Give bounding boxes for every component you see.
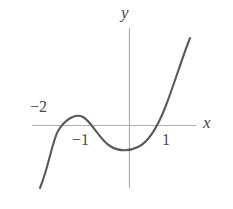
x-tick-label-neg-2: −2 [30, 99, 47, 115]
x-tick-label-neg-1: −1 [72, 132, 89, 148]
x-axis-label: x [203, 114, 211, 131]
y-axis-label: y [121, 4, 129, 21]
cubic-curve [40, 38, 190, 188]
function-graph-figure: y x −2 −1 1 [0, 0, 233, 209]
x-tick-label-pos-1: 1 [162, 132, 170, 148]
